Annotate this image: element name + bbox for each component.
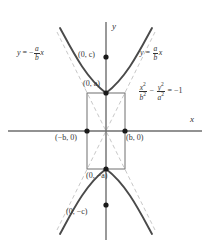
- asymptote-left-denominator: b: [34, 54, 40, 62]
- vertex-upper-point: [103, 90, 108, 95]
- asymptote-left-variable: x: [40, 48, 44, 57]
- asymptote-right-variable: x: [159, 48, 163, 57]
- equation-x-fraction: x2 b2: [139, 82, 148, 101]
- asymptote-left-fraction: ab: [34, 45, 40, 61]
- vertex-upper-label: (0, a): [83, 80, 100, 88]
- y-axis-label: y: [112, 22, 116, 31]
- asymptote-left-lhs: y: [17, 48, 21, 57]
- asymptote-left-sign: −: [29, 48, 34, 57]
- equation-right-hand-side: −1: [174, 86, 183, 95]
- equation-y-num-exp: 2: [161, 81, 164, 87]
- asymptote-left-label: y = −abx: [17, 45, 44, 61]
- focus-lower-label: (0, −c): [66, 208, 87, 216]
- covertex-left-label: (−b, 0): [55, 134, 77, 142]
- focus-upper-point: [103, 54, 108, 59]
- equation-x-denominator: b2: [139, 92, 148, 101]
- hyperbola-equation-label: x2 b2 − y2 a2 = −1: [138, 82, 183, 101]
- vertex-lower-label: (0, −a): [86, 172, 107, 180]
- equation-x-num-exp: 2: [143, 81, 146, 87]
- equation-y-den-exp: 2: [161, 91, 164, 97]
- figure-canvas: [0, 0, 210, 243]
- asymptote-left-equals: =: [23, 48, 28, 57]
- covertex-left-point: [84, 128, 89, 133]
- equation-y-denominator: a2: [157, 92, 166, 101]
- equation-y-fraction: y2 a2: [157, 82, 166, 101]
- equation-equals-sign: =: [168, 86, 173, 95]
- asymptote-right-label: y = abx: [140, 45, 162, 61]
- asymptote-right-denominator: b: [153, 54, 159, 62]
- asymptote-right-lhs: y: [140, 48, 144, 57]
- x-axis-label: x: [190, 115, 194, 124]
- focus-lower-point: [103, 202, 108, 207]
- asymptote-right-fraction: ab: [153, 45, 159, 61]
- asymptote-right-equals: =: [146, 48, 151, 57]
- equation-minus-sign: −: [150, 86, 155, 95]
- covertex-right-label: (b, 0): [126, 134, 143, 142]
- hyperbola-figure: y x y = −abx y = abx x2 b2 − y2 a2 =: [0, 0, 210, 243]
- focus-upper-label: (0, c): [78, 51, 95, 59]
- equation-x-den-exp: 2: [143, 91, 146, 97]
